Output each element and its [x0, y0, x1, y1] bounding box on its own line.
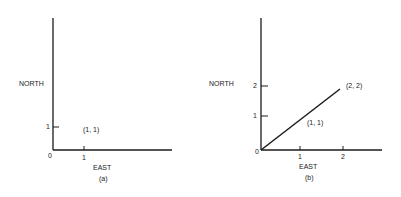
diagram-canvas	[0, 0, 401, 197]
panel-a-x-tick-label: 1	[82, 154, 86, 162]
panel-a-y-tick-label: 1	[46, 123, 50, 131]
panel-b-point-label-2-2: (2, 2)	[346, 82, 362, 90]
panel-a-x-axis-label: EAST	[93, 164, 111, 172]
panel-a-y-axis-label: NORTH	[19, 80, 44, 88]
panel-b-y-tick-label-1: 1	[253, 112, 257, 120]
panel-b-y-axis-label: NORTH	[209, 80, 234, 88]
panel-b-vector-line	[261, 89, 340, 150]
panel-b-origin-label: 0	[255, 148, 259, 156]
panel-b-x-axis-label: EAST	[299, 163, 317, 171]
panel-a-point-label: (1, 1)	[83, 126, 99, 134]
panel-b-point-label-1-1: (1, 1)	[307, 119, 323, 127]
panel-b-y-tick-label-2: 2	[253, 82, 257, 90]
panel-a-origin-label: 0	[48, 152, 52, 160]
panel-b-x-tick-label-1: 1	[298, 153, 302, 161]
panel-a-caption: (a)	[99, 175, 108, 183]
panel-b-caption: (b)	[305, 174, 314, 182]
panel-b-x-tick-label-2: 2	[341, 153, 345, 161]
